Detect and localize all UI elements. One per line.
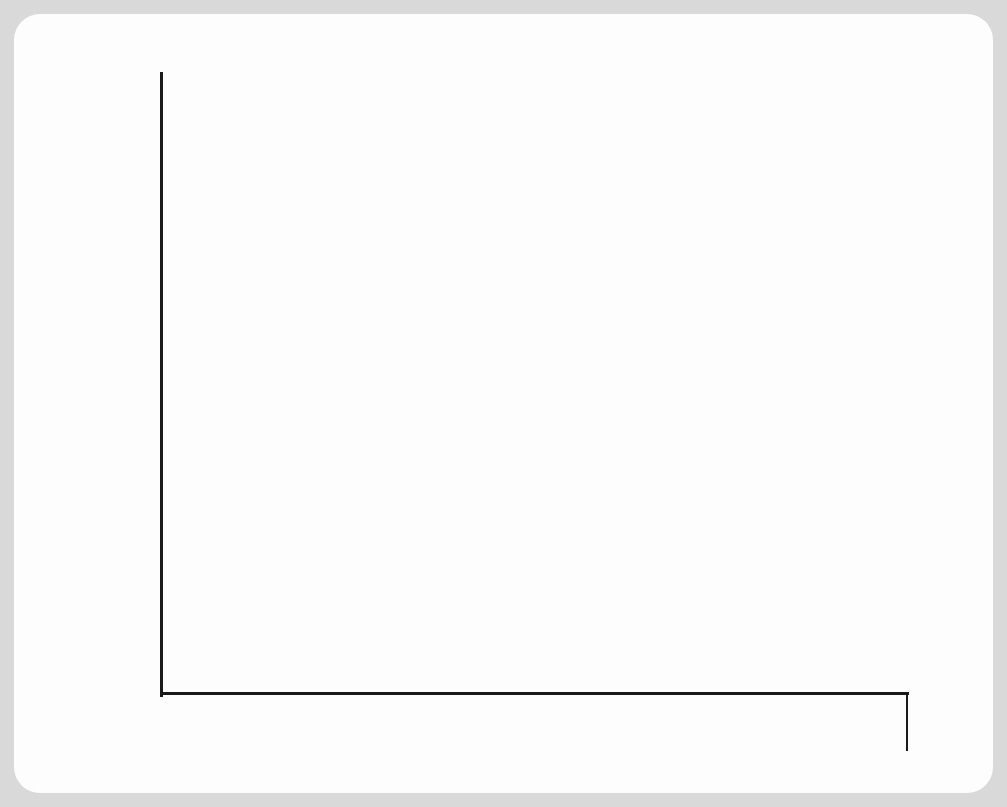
all-other-banks-pointer-line xyxy=(906,695,908,751)
chart-card xyxy=(14,14,993,793)
plot-area xyxy=(160,75,906,694)
chart-page xyxy=(0,0,1007,807)
